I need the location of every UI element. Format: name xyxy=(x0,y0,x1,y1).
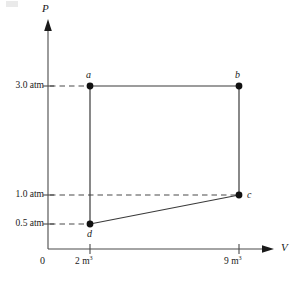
segment-c-d xyxy=(90,195,239,224)
point-label-d: d xyxy=(87,229,92,239)
pressure-guide-lines xyxy=(50,86,239,224)
x-tick-2m3-number: 2 xyxy=(75,256,80,266)
point-label-c: c xyxy=(247,190,251,200)
x-tick-9m3-number: 9 xyxy=(224,256,229,266)
p-axis xyxy=(44,19,52,249)
v-axis xyxy=(48,245,274,252)
x-tick-2m3-unit: m xyxy=(82,256,89,266)
pv-diagram-canvas xyxy=(0,0,303,285)
v-axis-label: V xyxy=(281,242,288,253)
pv-diagram-figure: P V 3.0 atm 1.0 atm 0.5 atm 0 2 m3 9 m3 … xyxy=(0,0,303,285)
point-marker-d xyxy=(87,221,94,228)
point-marker-b xyxy=(236,83,243,90)
p-axis-label: P xyxy=(42,3,49,14)
x-tick-9m3-exponent: 3 xyxy=(239,255,242,261)
x-tick-label-9m3: 9 m3 xyxy=(224,257,242,267)
x-tick-label-2m3: 2 m3 xyxy=(75,257,93,267)
point-label-b: b xyxy=(235,70,240,80)
point-marker-a xyxy=(87,83,94,90)
state-point-markers xyxy=(87,83,243,228)
origin-label: 0 xyxy=(40,256,45,266)
point-label-a: a xyxy=(86,70,91,80)
x-tick-2m3-exponent: 3 xyxy=(90,255,93,261)
y-tick-label-3atm: 3.0 atm xyxy=(0,81,44,91)
y-tick-label-1atm: 1.0 atm xyxy=(0,190,44,200)
x-tick-9m3-unit: m xyxy=(231,256,238,266)
point-marker-c xyxy=(236,192,243,199)
cycle-path xyxy=(90,86,239,224)
y-tick-label-05atm: 0.5 atm xyxy=(0,219,44,229)
